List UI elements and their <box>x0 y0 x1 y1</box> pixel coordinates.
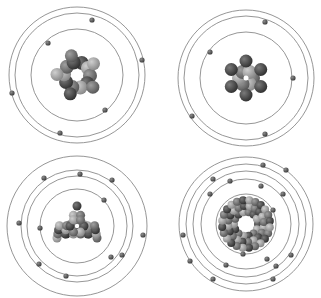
nucleus <box>218 196 274 252</box>
nucleon <box>240 89 253 102</box>
electron-orbit <box>31 29 123 121</box>
electron <box>101 197 106 202</box>
nucleus <box>51 49 100 100</box>
electron <box>270 207 275 212</box>
electron <box>283 167 288 172</box>
nucleon <box>64 87 77 100</box>
nucleus <box>225 55 267 102</box>
electron <box>223 262 228 267</box>
nucleon <box>65 49 78 62</box>
electron <box>77 171 82 176</box>
electron <box>210 176 215 181</box>
electron <box>180 232 185 237</box>
electron <box>57 130 62 135</box>
electron <box>109 177 114 182</box>
atom-top-right <box>178 10 314 146</box>
electron <box>36 261 41 266</box>
electron <box>273 263 278 268</box>
electron <box>108 254 113 259</box>
electron <box>270 276 275 281</box>
nucleon <box>240 55 253 68</box>
electron <box>262 19 267 24</box>
electron <box>262 131 267 136</box>
electron <box>288 252 293 257</box>
electron <box>140 232 145 237</box>
atom-bottom-right <box>179 157 313 291</box>
electron <box>37 225 42 230</box>
nucleon <box>254 80 267 93</box>
nucleon <box>90 221 99 230</box>
nucleon <box>73 202 82 211</box>
electron <box>210 276 215 281</box>
nucleon <box>225 80 238 93</box>
electron <box>207 191 212 196</box>
electron <box>9 90 14 95</box>
electron <box>227 178 232 183</box>
nucleon <box>86 81 99 94</box>
nucleon <box>87 57 100 70</box>
atom-bottom-left <box>7 156 147 296</box>
electron <box>258 183 263 188</box>
electron <box>187 258 192 263</box>
electron <box>16 220 21 225</box>
nucleon <box>266 223 274 231</box>
electron <box>280 191 285 196</box>
electron-orbit <box>9 7 145 143</box>
electron-orbit <box>15 13 139 137</box>
atom-illustration-canvas <box>0 0 321 298</box>
electron <box>260 162 265 167</box>
electron <box>264 256 269 261</box>
nucleon <box>51 68 64 81</box>
nucleon <box>76 215 85 224</box>
electron <box>119 252 124 257</box>
electron <box>189 113 194 118</box>
nucleon <box>225 63 238 76</box>
electron <box>45 40 50 45</box>
electron <box>290 75 295 80</box>
atom-diagram <box>0 0 321 298</box>
electron <box>63 273 68 278</box>
atom-top-left <box>9 7 145 143</box>
electron <box>207 49 212 54</box>
electron <box>89 17 94 22</box>
nucleon <box>254 63 267 76</box>
electron <box>240 251 245 256</box>
electron <box>41 175 46 180</box>
electron <box>102 107 107 112</box>
nucleus <box>53 202 102 243</box>
electron <box>139 57 144 62</box>
